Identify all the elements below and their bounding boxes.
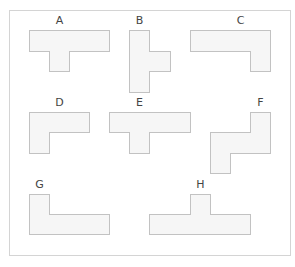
- grid-cell[interactable]: [270, 30, 291, 52]
- grid-cell[interactable]: [109, 173, 130, 195]
- shape-cell-c[interactable]: [190, 30, 211, 52]
- shape-cell-d[interactable]: [69, 112, 90, 133]
- shape-cell-a[interactable]: [29, 30, 50, 52]
- grid-cell[interactable]: [170, 173, 191, 195]
- grid-cell[interactable]: [69, 51, 90, 72]
- grid-cell[interactable]: [230, 71, 251, 93]
- shape-cell-b[interactable]: [129, 71, 150, 93]
- shape-cell-h[interactable]: [210, 214, 231, 235]
- grid-cell[interactable]: [149, 194, 171, 215]
- shape-cell-d[interactable]: [29, 132, 50, 154]
- grid-cell[interactable]: [170, 92, 191, 113]
- grid-cell[interactable]: [270, 173, 291, 195]
- grid-cell[interactable]: [109, 214, 130, 235]
- grid-cell[interactable]: [230, 234, 251, 256]
- grid-cell[interactable]: [170, 132, 191, 154]
- grid-cell[interactable]: [230, 153, 251, 174]
- grid-cell[interactable]: [210, 194, 231, 215]
- grid-cell[interactable]: [210, 173, 231, 195]
- grid-cell[interactable]: [69, 132, 90, 154]
- grid-cell[interactable]: [9, 194, 30, 215]
- grid-cell[interactable]: [29, 10, 50, 31]
- grid-cell[interactable]: [170, 30, 191, 52]
- grid-cell[interactable]: [9, 92, 30, 113]
- grid-cell[interactable]: [89, 92, 110, 113]
- grid-cell[interactable]: [250, 10, 271, 31]
- grid-cell[interactable]: [9, 173, 30, 195]
- shape-cell-g[interactable]: [29, 214, 50, 235]
- grid-cell[interactable]: [250, 92, 271, 113]
- grid-cell[interactable]: [49, 194, 70, 215]
- grid-cell[interactable]: [190, 153, 211, 174]
- grid-cell[interactable]: [270, 112, 291, 133]
- grid-cell[interactable]: [149, 71, 171, 93]
- grid-cell[interactable]: [129, 234, 150, 256]
- grid-cell[interactable]: [270, 10, 291, 31]
- grid-cell[interactable]: [149, 234, 171, 256]
- grid-cell[interactable]: [29, 153, 50, 174]
- grid-cell[interactable]: [170, 234, 191, 256]
- grid-cell[interactable]: [190, 10, 211, 31]
- shape-cell-g[interactable]: [49, 214, 70, 235]
- grid-cell[interactable]: [9, 153, 30, 174]
- grid-cell[interactable]: [9, 71, 30, 93]
- grid-cell[interactable]: [109, 234, 130, 256]
- grid-cell[interactable]: [210, 10, 231, 31]
- shape-cell-c[interactable]: [210, 30, 231, 52]
- grid-cell[interactable]: [49, 92, 70, 113]
- grid-cell[interactable]: [109, 51, 130, 72]
- shape-cell-h[interactable]: [149, 214, 171, 235]
- grid-cell[interactable]: [129, 153, 150, 174]
- grid-cell[interactable]: [190, 173, 211, 195]
- grid-cell[interactable]: [190, 71, 211, 93]
- grid-cell[interactable]: [270, 51, 291, 72]
- shape-cell-f[interactable]: [210, 132, 231, 154]
- grid-cell[interactable]: [149, 153, 171, 174]
- grid-cell[interactable]: [270, 234, 291, 256]
- grid-cell[interactable]: [270, 71, 291, 93]
- grid-cell[interactable]: [190, 234, 211, 256]
- grid-cell[interactable]: [29, 71, 50, 93]
- grid-cell[interactable]: [210, 234, 231, 256]
- grid-cell[interactable]: [149, 132, 171, 154]
- grid-cell[interactable]: [9, 10, 30, 31]
- shape-cell-e[interactable]: [149, 112, 171, 133]
- grid-cell[interactable]: [109, 92, 130, 113]
- grid-cell[interactable]: [170, 51, 191, 72]
- grid-cell[interactable]: [250, 153, 271, 174]
- grid-cell[interactable]: [129, 214, 150, 235]
- grid-cell[interactable]: [69, 173, 90, 195]
- grid-cell[interactable]: [29, 173, 50, 195]
- grid-cell[interactable]: [29, 234, 50, 256]
- grid-cell[interactable]: [190, 92, 211, 113]
- grid-cell[interactable]: [29, 92, 50, 113]
- shape-cell-c[interactable]: [230, 30, 251, 52]
- grid-cell[interactable]: [210, 112, 231, 133]
- grid-cell[interactable]: [170, 10, 191, 31]
- shape-cell-h[interactable]: [190, 194, 211, 215]
- grid-cell[interactable]: [129, 92, 150, 113]
- grid-cell[interactable]: [230, 51, 251, 72]
- grid-cell[interactable]: [190, 112, 211, 133]
- grid-cell[interactable]: [230, 92, 251, 113]
- grid-cell[interactable]: [129, 194, 150, 215]
- shape-cell-c[interactable]: [250, 30, 271, 52]
- grid-cell[interactable]: [250, 214, 271, 235]
- grid-cell[interactable]: [69, 234, 90, 256]
- grid-cell[interactable]: [230, 10, 251, 31]
- grid-cell[interactable]: [89, 194, 110, 215]
- grid-cell[interactable]: [250, 234, 271, 256]
- grid-cell[interactable]: [170, 194, 191, 215]
- grid-cell[interactable]: [109, 10, 130, 31]
- shape-cell-h[interactable]: [170, 214, 191, 235]
- grid-cell[interactable]: [89, 112, 110, 133]
- grid-cell[interactable]: [270, 132, 291, 154]
- grid-cell[interactable]: [9, 51, 30, 72]
- grid-cell[interactable]: [190, 132, 211, 154]
- grid-cell[interactable]: [69, 71, 90, 93]
- grid-cell[interactable]: [109, 132, 130, 154]
- grid-cell[interactable]: [170, 71, 191, 93]
- grid-cell[interactable]: [9, 132, 30, 154]
- grid-cell[interactable]: [129, 10, 150, 31]
- grid-cell[interactable]: [9, 30, 30, 52]
